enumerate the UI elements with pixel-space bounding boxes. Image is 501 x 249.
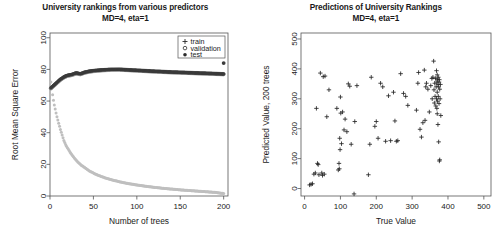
scatter-point (435, 122, 439, 126)
y-tick-label-500: 500 (290, 32, 299, 46)
y-tick-label-0: 0 (39, 193, 48, 198)
series-train (49, 81, 225, 195)
scatter-points (307, 59, 443, 196)
train-point (61, 134, 64, 137)
train-point (53, 104, 56, 107)
x-axis-title: Number of trees (109, 216, 169, 226)
scatter-point (388, 138, 392, 142)
scatter-point (352, 119, 356, 123)
panel-rmse-vs-trees: University rankings from various predict… (0, 0, 251, 249)
test-point (222, 72, 225, 75)
scatter-point (427, 110, 431, 114)
x-tick-label-500: 500 (477, 202, 491, 211)
train-point (62, 136, 65, 139)
x-tick-label-0: 0 (302, 202, 307, 211)
scatter-point (378, 81, 382, 85)
y-tick-label-400: 400 (290, 62, 299, 76)
legend-marker-test (183, 53, 187, 57)
scatter-point (437, 87, 441, 91)
scatter-point (420, 121, 424, 125)
right-plot-canvas: 01002003004005000100200300400500True Val… (251, 0, 501, 249)
scatter-point (339, 141, 343, 145)
y-axis-title: Root Mean Square Error (10, 69, 20, 160)
train-point (52, 99, 55, 102)
scatter-point (326, 88, 330, 92)
scatter-point (434, 106, 438, 110)
scatter-point (416, 70, 420, 74)
x-tick-label-100: 100 (333, 202, 347, 211)
train-point (54, 107, 57, 110)
x-tick-label-150: 150 (174, 202, 188, 211)
y-tick-label-60: 60 (39, 96, 48, 105)
scatter-point (423, 85, 427, 89)
scatter-point (403, 94, 407, 98)
scatter-point (422, 118, 426, 122)
scatter-point (415, 81, 419, 85)
left-plot-legend: trainvalidationtest (178, 36, 225, 59)
series-test (49, 68, 225, 90)
x-tick-label-100: 100 (130, 202, 144, 211)
legend-label-test: test (191, 50, 203, 59)
scatter-point (435, 90, 439, 94)
scatter-point (314, 106, 318, 110)
x-tick-label-300: 300 (405, 202, 419, 211)
y-axis-title: Predicted Value, 200 trees (261, 65, 271, 163)
scatter-point (431, 88, 435, 92)
scatter-point (348, 142, 352, 146)
scatter-point (338, 95, 342, 99)
x-tick-label-0: 0 (48, 202, 53, 211)
left-plot-canvas: 050100150200020406080100Number of treesR… (0, 0, 250, 249)
scatter-point (342, 117, 346, 121)
train-point (56, 119, 59, 122)
train-point (57, 122, 60, 125)
panel-predicted-vs-true: Predictions of University Rankings MD=4,… (251, 0, 501, 249)
figure-container: University rankings from various predict… (0, 0, 501, 249)
scatter-point (425, 87, 429, 91)
train-point (60, 131, 63, 134)
scatter-point (398, 71, 402, 75)
scatter-point (372, 124, 376, 128)
scatter-point (428, 83, 432, 87)
scatter-point (318, 71, 322, 75)
train-point (55, 111, 58, 114)
train-point (51, 93, 54, 96)
x-axis-title: True Value (375, 216, 415, 226)
scatter-point (417, 127, 421, 131)
scatter-point (383, 139, 387, 143)
x-tick-label-400: 400 (441, 202, 455, 211)
scatter-point (422, 68, 426, 72)
scatter-point (401, 91, 405, 95)
scatter-point (337, 136, 341, 140)
scatter-point (324, 115, 328, 119)
scatter-point (354, 83, 358, 87)
scatter-point (436, 140, 440, 144)
scatter-point (374, 119, 378, 123)
y-tick-label-80: 80 (39, 64, 48, 73)
train-point (59, 128, 62, 131)
scatter-point (419, 135, 423, 139)
scatter-point (375, 136, 379, 140)
scatter-point (430, 97, 434, 101)
scatter-point (424, 81, 428, 85)
train-point (222, 192, 225, 195)
y-tick-label-200: 200 (290, 121, 299, 135)
y-tick-label-20: 20 (39, 159, 48, 168)
x-tick-label-50: 50 (89, 202, 98, 211)
train-point (49, 81, 52, 84)
test-outlier-point (222, 61, 226, 65)
scatter-point (405, 103, 409, 107)
scatter-point (414, 108, 418, 112)
y-tick-label-100: 100 (39, 31, 48, 45)
scatter-point (386, 94, 390, 98)
scatter-point (434, 68, 438, 72)
scatter-point (334, 106, 338, 110)
y-tick-label-0: 0 (290, 186, 299, 191)
scatter-point (366, 173, 370, 177)
scatter-point (431, 59, 435, 63)
y-tick-label-300: 300 (290, 92, 299, 106)
scatter-point (369, 75, 373, 79)
scatter-point (336, 161, 340, 165)
x-tick-label-200: 200 (369, 202, 383, 211)
train-point (55, 115, 58, 118)
right-plot-frame (301, 33, 491, 196)
